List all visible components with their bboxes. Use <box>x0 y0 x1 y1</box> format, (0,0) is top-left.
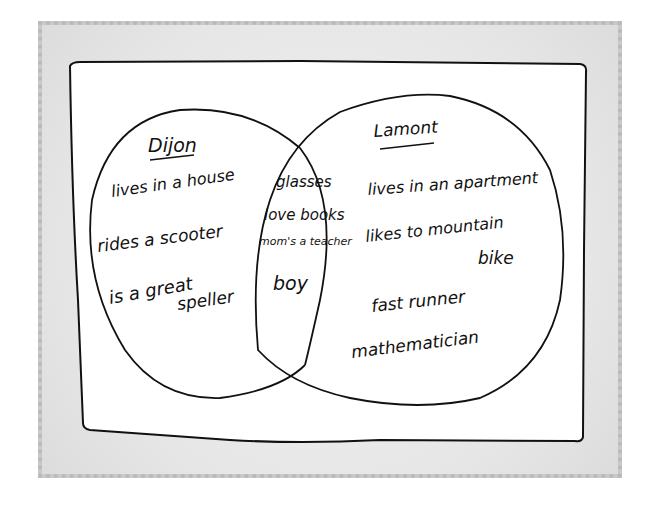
venn-diagram-drawing: Dijon lives in a house rides a scooter i… <box>0 0 661 507</box>
shared-item: glasses <box>276 173 332 191</box>
shared-item: mom's a teacher <box>259 235 353 248</box>
shared-item: boy <box>273 272 309 294</box>
shared-item: love books <box>264 206 345 224</box>
right-item: bike <box>478 248 514 268</box>
left-set-title: Dijon <box>148 134 197 156</box>
